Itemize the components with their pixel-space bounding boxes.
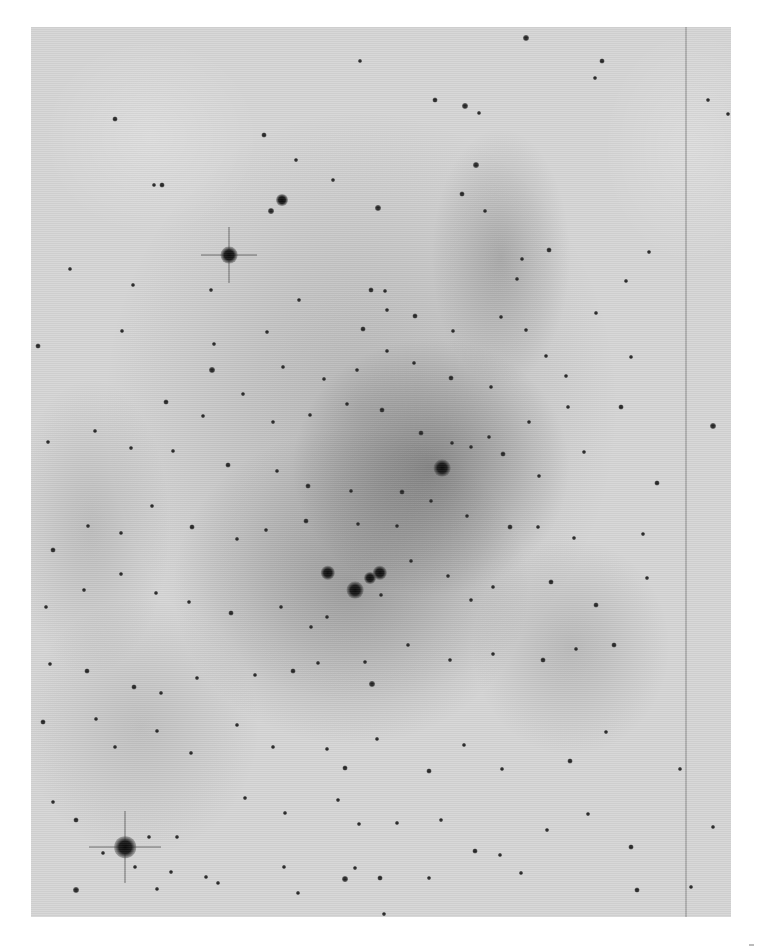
star (519, 871, 523, 875)
star (349, 489, 353, 493)
star (342, 876, 348, 882)
star (86, 524, 90, 528)
star (537, 474, 541, 478)
bright-star (114, 836, 136, 858)
nebula-cloud (291, 337, 571, 597)
star (235, 723, 239, 727)
star (549, 580, 554, 585)
star (264, 528, 268, 532)
star (582, 450, 586, 454)
star (51, 548, 56, 553)
star (645, 576, 649, 580)
star (541, 658, 546, 663)
bright-star (434, 460, 451, 477)
star (209, 288, 213, 292)
star (101, 851, 105, 855)
star (593, 76, 597, 80)
film-grain (31, 27, 731, 917)
nebula-cloud (41, 37, 261, 237)
star (212, 342, 216, 346)
star (226, 463, 231, 468)
star (600, 59, 605, 64)
star (154, 591, 158, 595)
star (308, 413, 312, 417)
star (536, 525, 540, 529)
star (271, 745, 275, 749)
star (413, 314, 418, 319)
star (451, 329, 455, 333)
star (44, 605, 48, 609)
star (48, 662, 52, 666)
star (195, 676, 199, 680)
star (378, 876, 383, 881)
nebula-cloud (601, 27, 731, 267)
nebula-cloud (471, 537, 671, 757)
star (726, 112, 730, 116)
star (491, 652, 495, 656)
star (209, 367, 215, 373)
star (216, 881, 220, 885)
star (379, 593, 383, 597)
star (243, 796, 247, 800)
star (383, 289, 387, 293)
star (469, 445, 473, 449)
star (433, 98, 438, 103)
star (169, 870, 173, 874)
star (253, 673, 257, 677)
corner-mark (749, 944, 754, 946)
star (477, 111, 481, 115)
star (113, 745, 117, 749)
star (297, 298, 301, 302)
star (85, 669, 90, 674)
star (449, 376, 454, 381)
star (204, 875, 208, 879)
bright-star (364, 572, 376, 584)
star (73, 887, 79, 893)
star (68, 267, 72, 271)
star (385, 308, 389, 312)
star (93, 429, 97, 433)
star (120, 329, 124, 333)
star (547, 248, 552, 253)
star (36, 344, 41, 349)
star (336, 798, 340, 802)
star (268, 208, 274, 214)
bright-star (347, 582, 364, 599)
star (483, 209, 487, 213)
star (395, 821, 399, 825)
star (647, 250, 651, 254)
star (46, 440, 50, 444)
star (190, 525, 195, 530)
star (462, 103, 468, 109)
star (448, 658, 452, 662)
star (462, 743, 466, 747)
star (439, 818, 443, 822)
star (564, 374, 568, 378)
star (306, 484, 311, 489)
star (325, 615, 329, 619)
star (94, 717, 98, 721)
star (655, 481, 660, 486)
star (594, 603, 599, 608)
star (155, 887, 159, 891)
star (129, 446, 133, 450)
star (235, 537, 239, 541)
star (322, 377, 326, 381)
star (325, 747, 329, 751)
star (545, 828, 549, 832)
star (604, 730, 608, 734)
star (229, 611, 234, 616)
star (544, 354, 548, 358)
star (316, 661, 320, 665)
star (113, 117, 118, 122)
star (375, 737, 379, 741)
star (382, 912, 386, 916)
star (427, 769, 432, 774)
star (150, 504, 154, 508)
star (501, 452, 506, 457)
star (499, 315, 503, 319)
star (133, 865, 137, 869)
star (283, 811, 287, 815)
bright-star (276, 194, 288, 206)
star (395, 524, 399, 528)
